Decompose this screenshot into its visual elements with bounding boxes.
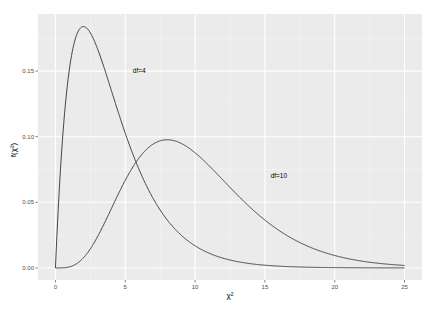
x-tick-label: 5: [124, 284, 128, 290]
y-axis: 0.000.050.100.15: [22, 68, 38, 271]
y-tick-label: 0.05: [22, 199, 34, 205]
y-tick-label: 0.15: [22, 68, 34, 74]
chi-square-density-chart: 0510152025 0.000.050.100.15 df=4df=10 χ²…: [0, 0, 434, 313]
y-axis-title: f(χ²): [9, 142, 18, 157]
x-tick-label: 10: [192, 284, 199, 290]
x-axis: 0510152025: [54, 280, 409, 290]
y-tick-label: 0.10: [22, 134, 34, 140]
x-tick-label: 20: [331, 284, 338, 290]
annotation-label: df=10: [271, 172, 288, 179]
y-tick-label: 0.00: [22, 265, 34, 271]
x-tick-label: 0: [54, 284, 58, 290]
x-tick-label: 15: [262, 284, 269, 290]
x-tick-label: 25: [401, 284, 408, 290]
x-axis-title: χ²: [227, 291, 234, 300]
annotation-label: df=4: [133, 67, 146, 74]
